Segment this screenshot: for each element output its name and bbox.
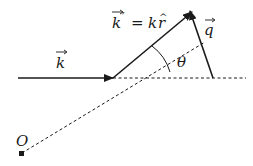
svg-text:′: ′ [122,11,125,25]
origin-label: O [16,132,28,150]
scattering-diagram: k k ′ = k r ^ q θ O [0,0,253,166]
incident-wave-vector-label: k [56,50,67,72]
svg-text:q: q [204,21,214,39]
origin-point-marker [19,151,24,156]
svg-text:=: = [131,14,144,32]
svg-text:k: k [148,14,157,32]
scattering-angle-arc [152,46,170,72]
scattered-wave-vector-label: k ′ = k r ^ [112,10,167,32]
svg-text:k: k [56,54,65,72]
svg-text:k: k [112,14,121,32]
svg-text:^: ^ [159,11,167,22]
momentum-transfer-vector-label: q [204,18,215,39]
scattering-angle-label: θ [177,53,186,71]
